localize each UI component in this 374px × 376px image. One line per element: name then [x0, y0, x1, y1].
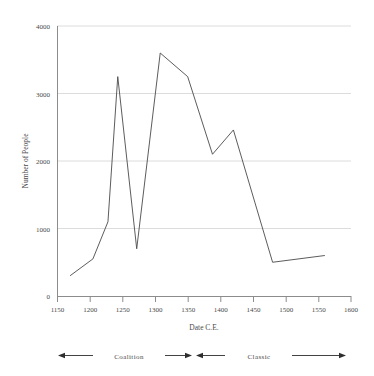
x-tick-label-1150: 1150	[51, 306, 65, 314]
x-tick-label-1450: 1450	[247, 306, 262, 314]
x-tick-label-1550: 1550	[312, 306, 327, 314]
y-axis-title: Number of People	[21, 133, 30, 189]
x-tick-label-1350: 1350	[181, 306, 196, 314]
y-tick-label-4000: 4000	[36, 23, 51, 31]
classic-right-arrowhead-icon	[339, 353, 346, 358]
chart-figure: 1150 1200 1250 1300 1350 1400 1450 1500 …	[0, 0, 374, 376]
x-tick-label-1200: 1200	[83, 306, 98, 314]
y-tick-label-1000: 1000	[36, 226, 51, 234]
coalition-right-arrowhead-icon	[185, 353, 192, 358]
coalition-period-label: Coalition	[114, 353, 144, 361]
x-tick-label-1500: 1500	[279, 306, 294, 314]
x-tick-labels: 1150 1200 1250 1300 1350 1400 1450 1500 …	[51, 306, 359, 314]
period-annotations: Coalition Classic	[58, 353, 346, 361]
x-tick-label-1400: 1400	[214, 306, 229, 314]
period-classic: Classic	[196, 353, 346, 361]
line-chart: 1150 1200 1250 1300 1350 1400 1450 1500 …	[0, 0, 374, 376]
period-coalition: Coalition	[58, 353, 192, 361]
x-axis-title: Date C.E.	[189, 323, 218, 332]
y-tick-label-2000: 2000	[36, 158, 51, 166]
y-tick-labels: 0 1000 2000 3000 4000	[36, 23, 51, 301]
x-tick-label-1250: 1250	[116, 306, 131, 314]
classic-left-arrowhead-icon	[196, 353, 203, 358]
data-series-line	[70, 53, 325, 276]
y-tick-label-3000: 3000	[36, 91, 51, 99]
y-tick-label-0: 0	[47, 293, 51, 301]
x-tick-label-1300: 1300	[149, 306, 164, 314]
classic-period-label: Classic	[247, 353, 270, 361]
x-tick-label-1600: 1600	[344, 306, 359, 314]
coalition-left-arrowhead-icon	[58, 353, 65, 358]
